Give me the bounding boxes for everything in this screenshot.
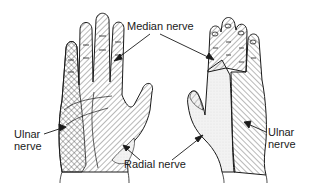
ulnar-nerve-label-right: Ulnar nerve xyxy=(268,126,296,150)
ulnar-nerve-label-left: Ulnar nerve xyxy=(14,128,42,152)
right-hand-radial-region xyxy=(188,60,235,172)
ulnar-right-line1: Ulnar xyxy=(268,126,294,138)
nerve-distribution-diagram: Median nerve Ulnar nerve Ulnar nerve Rad… xyxy=(0,0,311,183)
median-nerve-label: Median nerve xyxy=(127,20,194,32)
right-hand-dorsal xyxy=(188,18,267,184)
right-hand-median-region xyxy=(208,18,247,73)
ulnar-right-line2: nerve xyxy=(268,138,296,150)
radial-nerve-label: Radial nerve xyxy=(124,158,186,170)
ulnar-left-line1: Ulnar xyxy=(14,128,40,140)
ulnar-left-line2: nerve xyxy=(14,140,42,152)
